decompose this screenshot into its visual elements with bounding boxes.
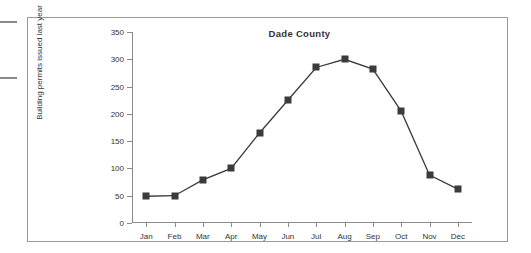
x-axis-tick-mark xyxy=(231,223,232,227)
x-axis-tick-mark xyxy=(430,223,431,227)
x-axis-tick-label: Nov xyxy=(422,232,436,241)
page-margin-rule-icon xyxy=(0,77,17,79)
data-point-marker xyxy=(143,193,150,200)
x-axis-tick-mark xyxy=(288,223,289,227)
x-axis-tick-label: Jan xyxy=(140,232,153,241)
data-point-marker xyxy=(369,66,376,73)
y-axis-tick-label: 200 xyxy=(94,109,124,118)
x-axis-tick-label: Jul xyxy=(311,232,321,241)
data-point-marker xyxy=(398,108,405,115)
x-axis-tick-label: Feb xyxy=(168,232,182,241)
data-point-marker xyxy=(313,64,320,71)
x-axis-tick-label: Oct xyxy=(395,232,407,241)
y-axis-tick-label: 100 xyxy=(94,164,124,173)
x-axis-tick-label: Dec xyxy=(451,232,465,241)
x-axis-tick-mark xyxy=(373,223,374,227)
page-margin-rule-icon xyxy=(0,21,17,23)
data-point-marker xyxy=(426,171,433,178)
x-axis-tick-mark xyxy=(316,223,317,227)
data-point-marker xyxy=(228,165,235,172)
chart-frame: Dade County Building permits issued last… xyxy=(27,17,508,242)
y-axis-tick-mark xyxy=(127,223,132,224)
x-axis-tick-label: Jun xyxy=(281,232,294,241)
series-line xyxy=(132,32,472,223)
y-axis-tick-label: 250 xyxy=(94,82,124,91)
figure-page: Dade County Building permits issued last… xyxy=(0,0,531,253)
x-axis-tick-mark xyxy=(401,223,402,227)
x-axis-tick-mark xyxy=(458,223,459,227)
x-axis-tick-label: Mar xyxy=(196,232,210,241)
data-point-marker xyxy=(199,176,206,183)
plot-area: 050100150200250300350 JanFebMarAprMayJun… xyxy=(132,32,472,223)
y-axis-tick-label: 150 xyxy=(94,137,124,146)
data-point-marker xyxy=(171,192,178,199)
x-axis-tick-mark xyxy=(175,223,176,227)
y-axis-tick-label: 0 xyxy=(94,219,124,228)
x-axis-tick-label: Aug xyxy=(337,232,351,241)
data-point-marker xyxy=(341,56,348,63)
data-point-marker xyxy=(256,129,263,136)
x-axis-tick-mark xyxy=(260,223,261,227)
y-axis-title: Building permits issued last year xyxy=(35,0,44,143)
x-axis-tick-mark xyxy=(146,223,147,227)
x-axis-tick-label: Sep xyxy=(366,232,380,241)
x-axis-tick-mark xyxy=(203,223,204,227)
x-axis-tick-label: Apr xyxy=(225,232,237,241)
y-axis-tick-label: 300 xyxy=(94,55,124,64)
data-point-marker xyxy=(454,186,461,193)
y-axis-tick-label: 350 xyxy=(94,28,124,37)
x-axis-tick-mark xyxy=(345,223,346,227)
y-axis-tick-label: 50 xyxy=(94,191,124,200)
data-point-marker xyxy=(284,97,291,104)
x-axis-tick-label: May xyxy=(252,232,267,241)
